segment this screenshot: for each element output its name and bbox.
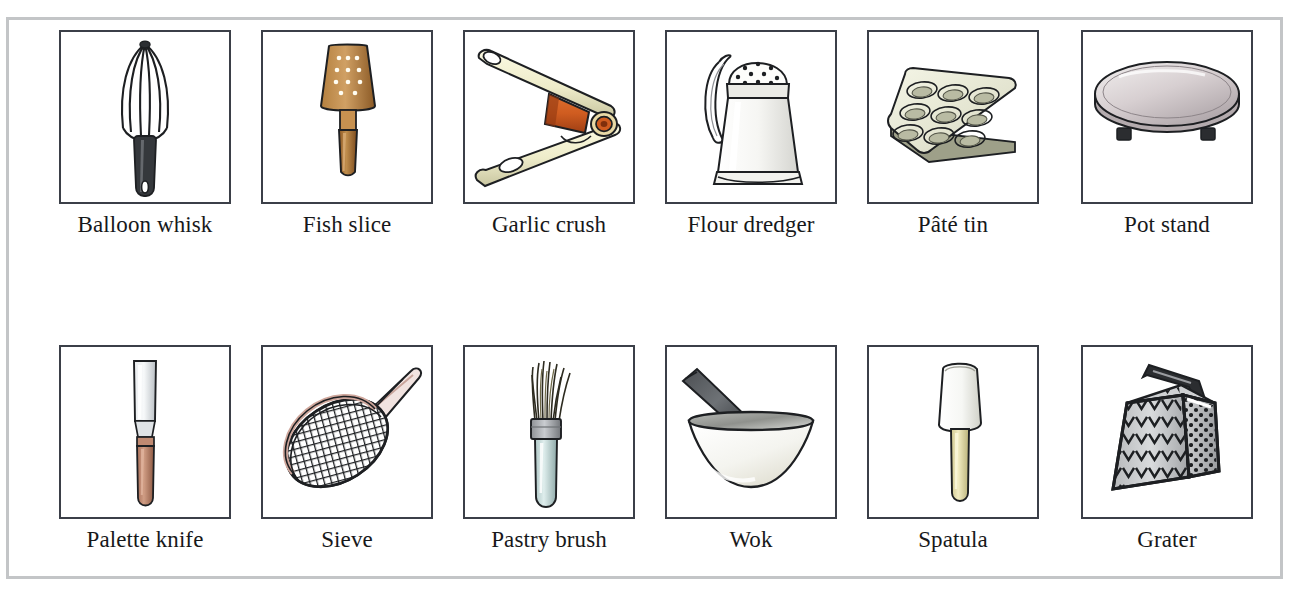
picture-dictionary-page: Balloon whisk: [0, 0, 1291, 597]
flour-dredger-icon: [667, 32, 835, 202]
grid-cell-flour-dredger[interactable]: Flour dredger: [665, 30, 837, 238]
pastry-brush-icon: [465, 347, 633, 517]
balloon-whisk-icon: [61, 32, 229, 202]
caption-label: Flour dredger: [665, 211, 837, 238]
caption-label: Spatula: [867, 526, 1039, 553]
picture-frame: [463, 345, 635, 519]
caption-label: Pot stand: [1081, 211, 1253, 238]
caption-label: Pâté tin: [867, 211, 1039, 238]
grid-cell-garlic-crush[interactable]: Garlic crush: [463, 30, 635, 238]
grid-cell-wok[interactable]: Wok: [665, 345, 837, 553]
caption-label: Fish slice: [261, 211, 433, 238]
wok-icon: [667, 347, 835, 517]
caption-label: Wok: [665, 526, 837, 553]
picture-frame: [59, 345, 231, 519]
grid-cell-fish-slice[interactable]: Fish slice: [261, 30, 433, 238]
picture-frame: [1081, 30, 1253, 204]
grater-icon: [1083, 347, 1251, 517]
garlic-crush-icon: [465, 32, 633, 202]
grid-cell-spatula[interactable]: Spatula: [867, 345, 1039, 553]
grid-cell-pot-stand[interactable]: Pot stand: [1081, 30, 1253, 238]
picture-frame: [463, 30, 635, 204]
picture-frame: [261, 30, 433, 204]
grid-cell-grater[interactable]: Grater: [1081, 345, 1253, 553]
grid-cell-palette-knife[interactable]: Palette knife: [59, 345, 231, 553]
pate-tin-icon: [869, 32, 1037, 202]
grid-cell-sieve[interactable]: Sieve: [261, 345, 433, 553]
caption-label: Palette knife: [59, 526, 231, 553]
picture-frame: [665, 345, 837, 519]
palette-knife-icon: [61, 347, 229, 517]
picture-frame: [59, 30, 231, 204]
pot-stand-icon: [1083, 32, 1251, 202]
picture-frame: [1081, 345, 1253, 519]
sieve-icon: [263, 347, 431, 517]
picture-frame: [261, 345, 433, 519]
picture-frame: [867, 30, 1039, 204]
picture-frame: [665, 30, 837, 204]
caption-label: Garlic crush: [463, 211, 635, 238]
grid-cell-pastry-brush[interactable]: Pastry brush: [463, 345, 635, 553]
utensil-grid: Balloon whisk: [0, 0, 1291, 597]
grid-cell-balloon-whisk[interactable]: Balloon whisk: [59, 30, 231, 238]
caption-label: Grater: [1081, 526, 1253, 553]
caption-label: Balloon whisk: [59, 211, 231, 238]
picture-frame: [867, 345, 1039, 519]
caption-label: Pastry brush: [463, 526, 635, 553]
fish-slice-icon: [263, 32, 431, 202]
caption-label: Sieve: [261, 526, 433, 553]
grid-cell-pate-tin[interactable]: Pâté tin: [867, 30, 1039, 238]
spatula-icon: [869, 347, 1037, 517]
